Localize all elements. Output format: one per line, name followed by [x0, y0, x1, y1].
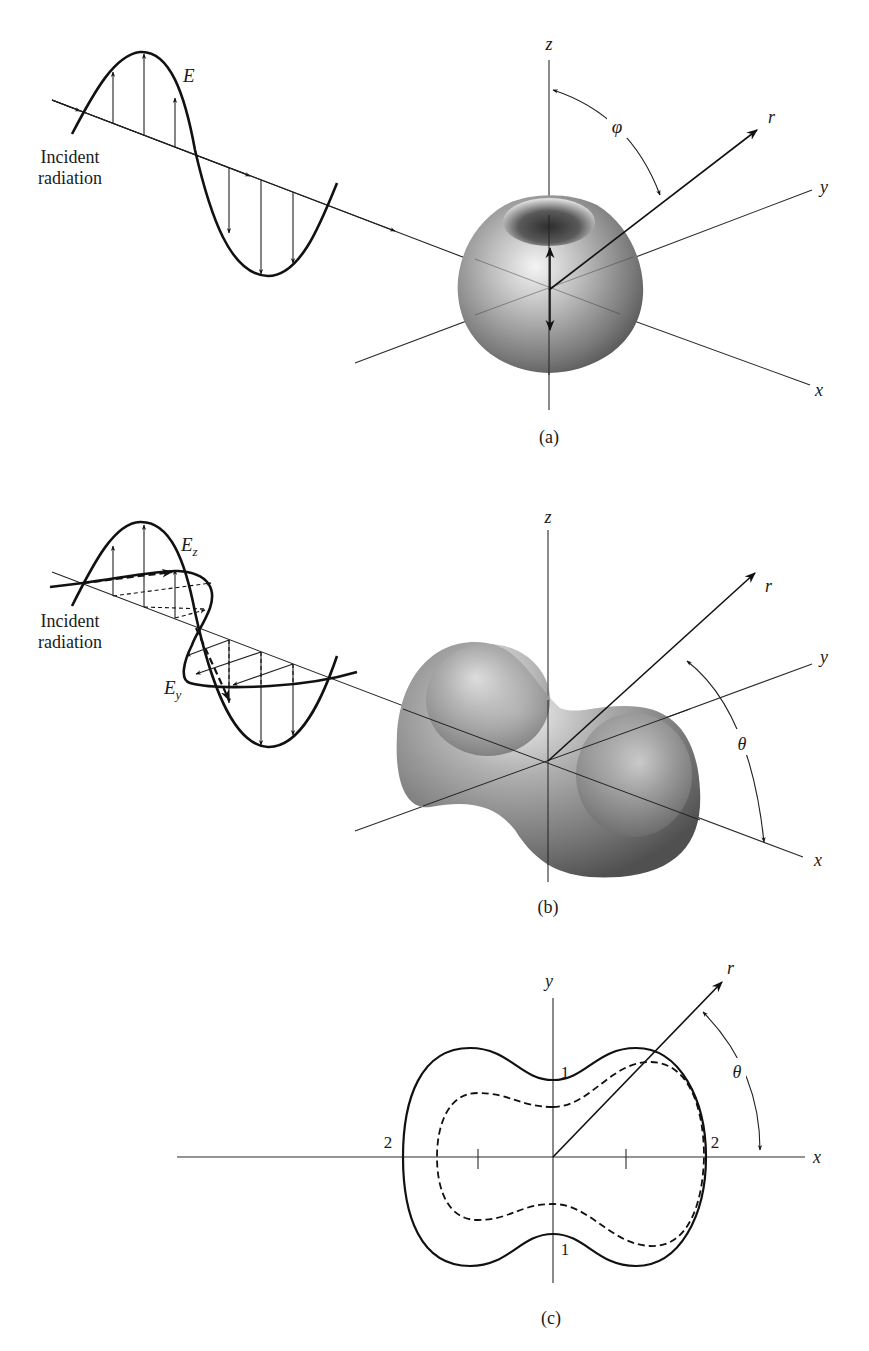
caption-c: (c)	[541, 1308, 561, 1329]
ez-label: Ez	[180, 534, 198, 559]
tick-label-top-1: 1	[561, 1063, 570, 1082]
figure-canvas: E Incident radiation φ z r y x (a)	[0, 0, 869, 1351]
panel-b: Ez Ey Incident radiation θ z r y x (b)	[38, 507, 828, 918]
theta-label-c: θ	[733, 1062, 742, 1082]
r-label-b: r	[765, 576, 773, 596]
dashed-contour	[437, 1062, 704, 1246]
phi-label: φ	[612, 116, 623, 137]
tick-label-left-2: 2	[384, 1133, 393, 1152]
r-label-a: r	[768, 107, 776, 127]
y-axis-label-b: y	[818, 647, 828, 667]
caption-a: (a)	[539, 427, 559, 448]
x-axis-label-c: x	[812, 1147, 821, 1167]
e-field-wave	[72, 52, 337, 276]
theta-label-b: θ	[738, 734, 747, 754]
r-vector-c	[553, 982, 722, 1157]
phi-angle-arc	[553, 90, 660, 195]
incident-radiation-label-line1: Incident	[41, 147, 100, 167]
x-axis-label-b: x	[813, 850, 822, 870]
incident-radiation-label-line1-b: Incident	[41, 611, 100, 631]
panel-c: θ y r x 2 2 1 1 (c)	[177, 958, 821, 1329]
ey-label: Ey	[163, 677, 182, 702]
incident-radiation-label-line2: radiation	[38, 168, 102, 188]
z-axis-label-b: z	[543, 507, 551, 527]
tick-label-right-2: 2	[711, 1133, 720, 1152]
incident-radiation-label-line2-b: radiation	[38, 632, 102, 652]
e-field-label: E	[182, 65, 195, 86]
z-axis-label-a: z	[544, 34, 552, 54]
y-axis-label-c: y	[543, 971, 553, 991]
x-axis-label-a: x	[814, 380, 823, 400]
tick-label-bottom-1: 1	[561, 1240, 570, 1259]
r-label-c: r	[727, 958, 735, 978]
panel-a: E Incident radiation φ z r y x (a)	[38, 34, 828, 448]
caption-b: (b)	[538, 897, 559, 918]
y-axis-label-a: y	[818, 177, 828, 197]
